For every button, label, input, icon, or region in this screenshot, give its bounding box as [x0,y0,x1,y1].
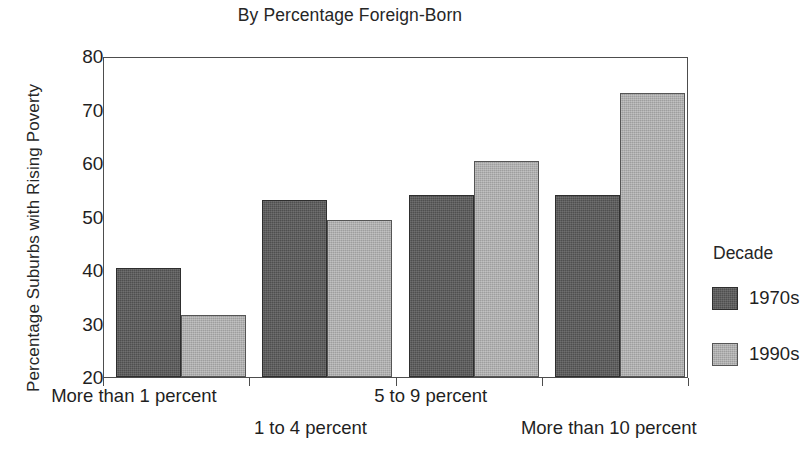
x-tick-mark [688,378,689,386]
legend-entries: 1970s1990s [712,286,808,366]
legend-swatch-1990s [712,343,738,366]
y-axis-title: Percentage Suburbs with Rising Poverty [24,84,44,392]
y-tick-label: 30 [57,314,103,336]
legend-item-1990s[interactable]: 1990s [712,342,808,366]
legend-title: Decade [713,243,808,264]
bar-1970s-4 [555,195,620,377]
bar-1990s-1 [181,315,246,377]
legend-swatch-1970s [712,287,738,310]
x-category-label-3: 5 to 9 percent [374,385,487,407]
bar-1970s-2 [262,200,327,377]
bars-layer [104,58,687,377]
x-category-label-4: More than 10 percent [521,417,697,439]
x-category-label-2: 1 to 4 percent [254,417,367,439]
legend-label: 1970s [749,287,799,309]
bar-1990s-2 [327,220,392,377]
bar-1970s-3 [409,195,474,377]
legend: Decade 1970s1990s [712,243,808,398]
legend-label: 1990s [749,343,799,365]
x-category-label-1: More than 1 percent [51,385,217,407]
plot-area [103,57,688,378]
chart-title: By Percentage Foreign-Born [0,5,700,26]
chart-figure: By Percentage Foreign-Born Percentage Su… [0,0,808,456]
y-axis-title-container: Percentage Suburbs with Rising Poverty [0,0,30,456]
bar-1970s-1 [116,268,181,377]
legend-item-1970s[interactable]: 1970s [712,286,808,310]
x-tick-mark [542,378,543,386]
y-tick-label: 80 [57,46,103,68]
y-tick-label: 40 [57,260,103,282]
x-tick-mark [249,378,250,386]
y-axis-tick-labels: 80706050403020 [47,57,103,378]
y-tick-label: 50 [57,207,103,229]
y-tick-label: 60 [57,153,103,175]
y-tick-label: 70 [57,100,103,122]
bar-1990s-3 [474,161,539,377]
bar-1990s-4 [620,93,685,377]
